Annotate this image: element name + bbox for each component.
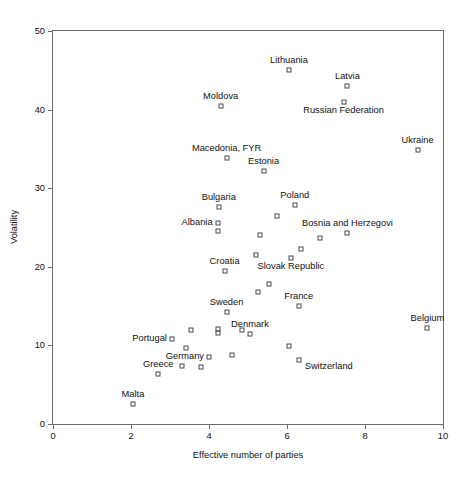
y-axis-tick-label: 40: [35, 105, 45, 115]
y-axis-tick-label: 10: [35, 340, 45, 350]
data-point[interactable]: [183, 345, 188, 350]
data-point[interactable]: [275, 214, 280, 219]
x-axis-tick-label: 10: [438, 431, 448, 441]
data-point-label: Latvia: [335, 72, 360, 81]
data-point[interactable]: [255, 289, 260, 294]
data-point-label: Belgium: [411, 314, 445, 323]
x-axis-tick-label: 6: [284, 431, 289, 441]
data-point[interactable]: [230, 352, 235, 357]
data-point-label: Poland: [280, 192, 309, 201]
x-axis-tick-label: 8: [362, 431, 367, 441]
data-point-label: France: [284, 292, 313, 301]
x-axis-tick-label: 4: [206, 431, 211, 441]
y-axis-tick-label: 20: [35, 262, 45, 272]
y-axis-tick: [48, 31, 53, 32]
y-axis-tick: [48, 188, 53, 189]
data-point-label: Portugal: [132, 334, 167, 343]
y-axis-tick-label: 30: [35, 183, 45, 193]
data-point[interactable]: [415, 148, 420, 153]
data-point-label: Bosnia and Herzegovi: [302, 219, 393, 228]
x-axis-tick-label: 0: [50, 431, 55, 441]
data-point-label: Switzerland: [305, 362, 353, 371]
x-axis-label: Effective number of parties: [193, 450, 303, 460]
x-axis-tick: [443, 424, 444, 429]
scatter-plot-figure: 010203040500246810LithuaniaLatviaRussian…: [0, 0, 468, 480]
data-point[interactable]: [156, 371, 161, 376]
data-point[interactable]: [253, 253, 258, 258]
data-point-label: Russian Federation: [303, 106, 384, 115]
data-point[interactable]: [257, 233, 262, 238]
data-point[interactable]: [224, 156, 229, 161]
data-point-label: Croatia: [210, 257, 240, 266]
data-point[interactable]: [296, 304, 301, 309]
x-axis-tick-label: 2: [128, 431, 133, 441]
data-point[interactable]: [247, 332, 252, 337]
data-point-label: Slovak Republic: [258, 262, 325, 271]
y-axis-tick: [48, 110, 53, 111]
data-point[interactable]: [341, 99, 346, 104]
plot-area: 010203040500246810LithuaniaLatviaRussian…: [52, 30, 444, 425]
data-point[interactable]: [267, 282, 272, 287]
data-point-label: Albania: [182, 218, 213, 227]
y-axis-label: Volatility: [9, 210, 19, 244]
data-point[interactable]: [215, 229, 220, 234]
data-point[interactable]: [216, 205, 221, 210]
data-point-label: Estonia: [248, 157, 279, 166]
data-point-label: Moldova: [203, 92, 238, 101]
data-point[interactable]: [261, 168, 266, 173]
data-point[interactable]: [345, 84, 350, 89]
data-point[interactable]: [199, 364, 204, 369]
x-axis-tick: [365, 424, 366, 429]
data-point[interactable]: [179, 363, 184, 368]
data-point[interactable]: [296, 357, 301, 362]
data-point-label: Greece: [143, 360, 174, 369]
data-point-label: Malta: [122, 390, 145, 399]
data-point[interactable]: [215, 220, 220, 225]
data-point[interactable]: [286, 344, 291, 349]
y-axis-tick-label: 0: [40, 419, 45, 429]
data-point-label: Ukraine: [402, 137, 434, 146]
x-axis-tick: [131, 424, 132, 429]
data-point-label: Lithuania: [270, 57, 308, 66]
x-axis-tick: [53, 424, 54, 429]
data-point[interactable]: [215, 330, 220, 335]
data-point[interactable]: [292, 203, 297, 208]
y-axis-tick: [48, 345, 53, 346]
data-point[interactable]: [130, 401, 135, 406]
data-point[interactable]: [224, 309, 229, 314]
data-point[interactable]: [318, 235, 323, 240]
y-axis-tick: [48, 267, 53, 268]
data-point[interactable]: [169, 337, 174, 342]
data-point[interactable]: [298, 246, 303, 251]
data-point[interactable]: [222, 268, 227, 273]
data-point-label: Bulgaria: [202, 193, 236, 202]
data-point[interactable]: [218, 103, 223, 108]
data-point[interactable]: [425, 326, 430, 331]
data-point[interactable]: [288, 256, 293, 261]
y-axis-tick-label: 50: [35, 26, 45, 36]
data-point[interactable]: [345, 231, 350, 236]
x-axis-tick: [287, 424, 288, 429]
data-point[interactable]: [189, 327, 194, 332]
data-point-label: Denmark: [231, 321, 269, 330]
data-point[interactable]: [207, 355, 212, 360]
data-point[interactable]: [286, 68, 291, 73]
data-point-label: Macedonia, FYR: [192, 145, 261, 154]
x-axis-tick: [209, 424, 210, 429]
data-point-label: Sweden: [210, 298, 244, 307]
